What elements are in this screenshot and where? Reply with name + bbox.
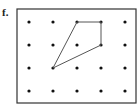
grid-dot xyxy=(27,89,30,92)
grid-dot xyxy=(27,43,30,46)
grid-dot xyxy=(75,43,78,46)
grid-dot xyxy=(75,66,78,69)
grid-dot xyxy=(123,66,126,69)
grid-dot xyxy=(27,20,30,23)
grid-dot xyxy=(99,66,102,69)
grid-dot xyxy=(123,89,126,92)
grid-dot xyxy=(51,20,54,23)
grid-dot xyxy=(99,89,102,92)
grid-dot xyxy=(123,20,126,23)
grid-dot xyxy=(123,43,126,46)
grid-dot xyxy=(51,89,54,92)
grid-dot xyxy=(51,43,54,46)
grid-dot xyxy=(27,66,30,69)
geoboard-diagram xyxy=(0,0,139,111)
grid-dot xyxy=(75,89,78,92)
